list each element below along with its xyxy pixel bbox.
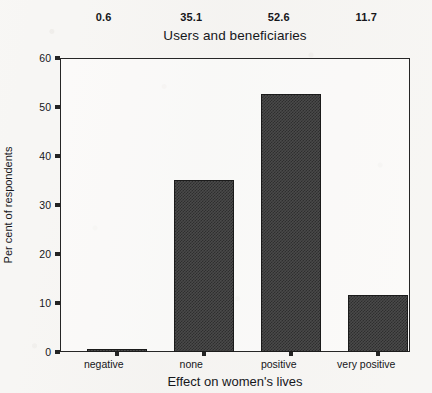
- x-axis-tick-label: very positive: [323, 356, 411, 372]
- bar-very-positive[interactable]: [348, 295, 408, 352]
- x-axis-title: Effect on women's lives: [60, 374, 410, 389]
- bar-value-label: 52.6: [235, 8, 323, 26]
- x-axis-tick-label: negative: [60, 356, 148, 372]
- x-axis-labels: negative none positive very positive: [60, 356, 410, 372]
- chart-title: Users and beneficiaries: [60, 28, 410, 43]
- y-axis-tick-label: 60: [39, 51, 51, 65]
- bar-value-label: 0.6: [60, 8, 148, 26]
- bar-slot: [261, 58, 321, 352]
- bar-value-label: 35.1: [148, 8, 236, 26]
- y-axis-tick-label: 20: [39, 247, 51, 261]
- y-axis-tick-label: 30: [39, 198, 51, 212]
- x-axis-tick-label: none: [148, 356, 236, 372]
- bar-series: [60, 58, 410, 352]
- bar-slot: [348, 58, 408, 352]
- bar-positive[interactable]: [261, 94, 321, 352]
- bar-none[interactable]: [174, 180, 234, 352]
- bar-slot: [174, 58, 234, 352]
- y-axis-tick-label: 50: [39, 100, 51, 114]
- y-axis-tick-label: 40: [39, 149, 51, 163]
- bar-value-label: 11.7: [323, 8, 411, 26]
- y-axis-tick-label: 0: [45, 345, 51, 359]
- y-axis-title: Per cent of respondents: [0, 58, 16, 352]
- bar-value-labels: 0.6 35.1 52.6 11.7: [60, 8, 410, 26]
- chart-page: 0.6 35.1 52.6 11.7 Users and beneficiari…: [0, 0, 432, 393]
- bar-slot: [87, 58, 147, 352]
- x-axis-tick-label: positive: [235, 356, 323, 372]
- y-axis-tick-label: 10: [39, 296, 51, 310]
